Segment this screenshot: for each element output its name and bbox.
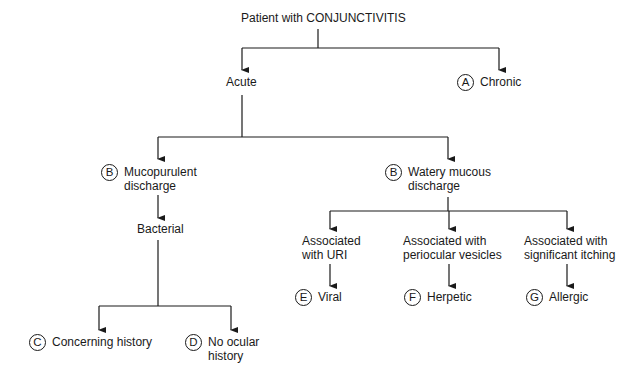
mucopurulent-label: Mucopurulentdischarge xyxy=(124,165,197,193)
badge-b-icon: B xyxy=(385,164,402,181)
uri-line1: Associated xyxy=(302,234,361,248)
concerning-history-node: CConcerning history xyxy=(29,335,152,351)
mucopurulent-line2: discharge xyxy=(124,179,176,193)
badge-b-icon: B xyxy=(101,164,118,181)
no-ocular-history-node: DNo ocularhistory xyxy=(185,335,259,363)
itching-line1: Associated with xyxy=(524,234,607,248)
no-ocular-history-label: No ocularhistory xyxy=(208,335,259,363)
viral-label: Viral xyxy=(318,290,342,304)
acute-node: Acute xyxy=(226,75,257,89)
itching-line2: significant itching xyxy=(524,248,615,262)
acute-label: Acute xyxy=(226,75,257,89)
mucopurulent-node: BMucopurulentdischarge xyxy=(101,165,197,193)
itching-node: Associated withsignificant itching xyxy=(524,234,615,262)
periocular-line1: Associated with xyxy=(403,234,486,248)
badge-a-icon: A xyxy=(457,74,474,91)
watery-node: BWatery mucousdischarge xyxy=(385,165,491,193)
no-ocular-line1: No ocular xyxy=(208,335,259,349)
watery-line2: discharge xyxy=(408,179,460,193)
badge-e-icon: E xyxy=(295,289,312,306)
uri-node: Associatedwith URI xyxy=(302,234,361,262)
badge-g-icon: G xyxy=(526,289,543,306)
bacterial-node: Bacterial xyxy=(137,222,184,236)
periocular-line2: periocular vesicles xyxy=(403,248,502,262)
chronic-node: AChronic xyxy=(457,75,521,91)
allergic-node: GAllergic xyxy=(526,290,588,306)
root-node: Patient with CONJUNCTIVITIS xyxy=(241,11,406,25)
badge-f-icon: F xyxy=(404,289,421,306)
allergic-label: Allergic xyxy=(549,290,588,304)
periocular-node: Associated withperiocular vesicles xyxy=(403,234,502,262)
uri-line2: with URI xyxy=(302,248,347,262)
no-ocular-line2: history xyxy=(208,349,243,363)
mucopurulent-line1: Mucopurulent xyxy=(124,165,197,179)
concerning-history-label: Concerning history xyxy=(52,335,152,349)
root-label: Patient with CONJUNCTIVITIS xyxy=(241,11,406,25)
badge-c-icon: C xyxy=(29,334,46,351)
herpetic-node: FHerpetic xyxy=(404,290,472,306)
viral-node: EViral xyxy=(295,290,342,306)
connector-lines xyxy=(0,0,637,376)
watery-label: Watery mucousdischarge xyxy=(408,165,491,193)
bacterial-label: Bacterial xyxy=(137,222,184,236)
chronic-label: Chronic xyxy=(480,75,521,89)
watery-line1: Watery mucous xyxy=(408,165,491,179)
herpetic-label: Herpetic xyxy=(427,290,472,304)
badge-d-icon: D xyxy=(185,334,202,351)
